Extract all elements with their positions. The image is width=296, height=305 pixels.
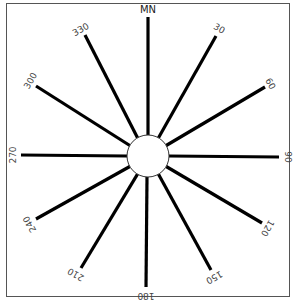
spoke-90 [169,156,279,157]
label-mn: MN [140,4,156,15]
label-330: 330 [71,21,91,38]
label-180: 180 [137,291,154,301]
label-90: 90 [283,151,293,163]
spoke-180 [146,177,147,287]
compass-rose: MN 30 60 90 120 150 180 210 240 270 300 … [0,0,296,305]
label-150: 150 [204,269,224,286]
label-270: 270 [8,146,18,163]
spoke-270 [21,155,127,156]
label-30: 30 [212,21,227,36]
label-240: 240 [21,214,38,234]
label-60: 60 [263,76,278,91]
center-hub [127,135,169,177]
